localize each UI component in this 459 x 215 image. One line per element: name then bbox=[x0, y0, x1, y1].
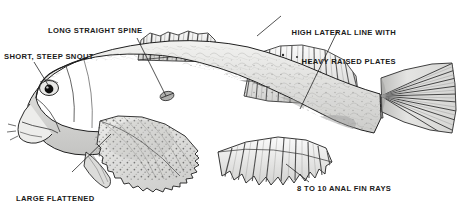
label-long-straight-spine: LONG STRAIGHT SPINE bbox=[48, 26, 142, 36]
leader-lateral-left bbox=[257, 16, 281, 36]
label-high-lateral-line: HIGH LATERAL LINE WITH HEAVY RAISED PLAT… bbox=[283, 9, 396, 86]
long-straight-spine bbox=[159, 90, 175, 102]
label-short-steep-snout: SHORT, STEEP SNOUT bbox=[4, 52, 94, 62]
label-line-1: LARGE FLATTENED bbox=[16, 194, 95, 204]
label-large-flattened-spine: LARGE FLATTENED DOWNWARDLY DIRECTED SPIN… bbox=[16, 175, 95, 215]
eye bbox=[40, 80, 59, 96]
label-line-2: HEAVY RAISED PLATES bbox=[283, 57, 396, 67]
label-anal-fin-rays: 8 TO 10 ANAL FIN RAYS bbox=[297, 184, 391, 194]
label-line-1: HIGH LATERAL LINE WITH bbox=[283, 28, 396, 38]
anal-fin bbox=[218, 137, 332, 185]
fish-anatomy-figure: SHORT, STEEP SNOUT LONG STRAIGHT SPINE H… bbox=[0, 0, 459, 215]
